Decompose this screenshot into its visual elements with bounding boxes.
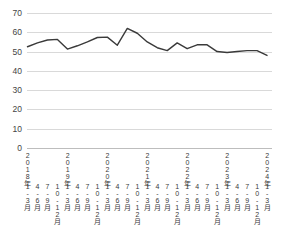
y-tick-label: 50 — [0, 48, 22, 57]
y-tick-label: 20 — [0, 105, 22, 114]
x-tick-label: 10-12月 — [53, 183, 62, 229]
x-axis-year-label: 2021年 — [143, 152, 152, 191]
x-axis-year-label: 2024年 — [263, 152, 272, 191]
x-tick-label: 7-9月 — [163, 183, 172, 215]
x-tick-label: 10-12月 — [213, 183, 222, 229]
series-line — [27, 13, 272, 148]
y-tick-label: 70 — [0, 9, 22, 18]
x-tick-label: 4-6月 — [33, 183, 42, 215]
x-axis-year-label: 2019年 — [63, 152, 72, 191]
x-tick-label: 7-9月 — [123, 183, 132, 215]
x-tick-label: 10-12月 — [173, 183, 182, 229]
x-tick-label: 7-9月 — [83, 183, 92, 215]
x-tick-label: 4-6月 — [233, 183, 242, 215]
line-chart: 010203040506070 1-3月2018年4-6月7-9月10-12月1… — [0, 0, 281, 231]
x-axis-year-label: 2018年 — [23, 152, 32, 191]
x-tick-label: 4-6月 — [113, 183, 122, 215]
x-tick-label: 7-9月 — [243, 183, 252, 215]
y-tick-label: 10 — [0, 125, 22, 134]
x-axis-year-label: 2022年 — [183, 152, 192, 191]
x-tick-label: 7-9月 — [43, 183, 52, 215]
x-axis: 1-3月2018年4-6月7-9月10-12月1-3月2019年4-6月7-9月… — [27, 150, 272, 231]
x-tick-label: 7-9月 — [203, 183, 212, 215]
x-axis-year-label: 2020年 — [103, 152, 112, 191]
plot-area — [27, 13, 272, 148]
y-tick-label: 60 — [0, 28, 22, 37]
chart-caption — [0, 224, 281, 231]
x-tick-label: 4-6月 — [193, 183, 202, 215]
y-tick-label: 0 — [0, 144, 22, 153]
x-tick-label: 10-12月 — [133, 183, 142, 229]
x-tick-label: 10-12月 — [253, 183, 262, 229]
x-axis-year-label: 2023年 — [223, 152, 232, 191]
x-tick-label: 10-12月 — [93, 183, 102, 229]
y-tick-label: 40 — [0, 67, 22, 76]
y-tick-label: 30 — [0, 86, 22, 95]
x-tick-label: 4-6月 — [73, 183, 82, 215]
gridline — [27, 148, 272, 149]
x-tick-label: 4-6月 — [153, 183, 162, 215]
